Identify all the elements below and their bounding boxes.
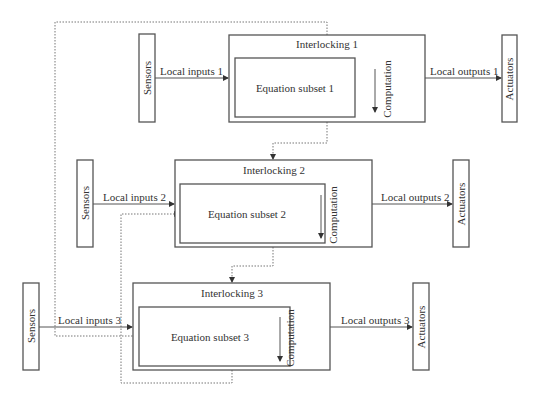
computation-label-1: Computation [381, 60, 393, 118]
connector-i2-to-i3 [232, 247, 273, 282]
local-outputs-label-3: Local outputs 3 [341, 314, 410, 326]
interlocking-title-2: Interlocking 2 [243, 164, 305, 176]
local-inputs-label-1: Local inputs 1 [160, 65, 223, 77]
actuators-label-2: Actuators [455, 183, 467, 226]
equation-subset-label-2: Equation subset 2 [208, 208, 286, 220]
row-3: Sensors Local inputs 3 Interlocking 3 Eq… [23, 283, 429, 370]
interlocking-diagram: Sensors Local inputs 1 Interlocking 1 Eq… [0, 0, 540, 403]
computation-label-3: Computation [284, 309, 296, 367]
row-1: Sensors Local inputs 1 Interlocking 1 Eq… [139, 34, 517, 122]
computation-label-2: Computation [327, 186, 339, 244]
row-2: Sensors Local inputs 2 Interlocking 2 Eq… [77, 160, 469, 247]
local-outputs-label-1: Local outputs 1 [430, 65, 498, 77]
equation-subset-label-1: Equation subset 1 [256, 82, 334, 94]
equation-subset-label-3: Equation subset 3 [171, 331, 250, 343]
sensors-label-2: Sensors [79, 186, 91, 220]
actuators-label-1: Actuators [503, 58, 515, 101]
sensors-label-1: Sensors [141, 61, 153, 95]
actuators-label-3: Actuators [415, 306, 427, 349]
local-outputs-label-2: Local outputs 2 [381, 191, 449, 203]
connector-i1-to-i2 [273, 122, 327, 159]
local-inputs-label-3: Local inputs 3 [58, 314, 121, 326]
local-inputs-label-2: Local inputs 2 [103, 191, 166, 203]
interlocking-title-1: Interlocking 1 [296, 38, 358, 50]
sensors-label-3: Sensors [25, 309, 37, 343]
interlocking-title-3: Interlocking 3 [201, 287, 264, 299]
